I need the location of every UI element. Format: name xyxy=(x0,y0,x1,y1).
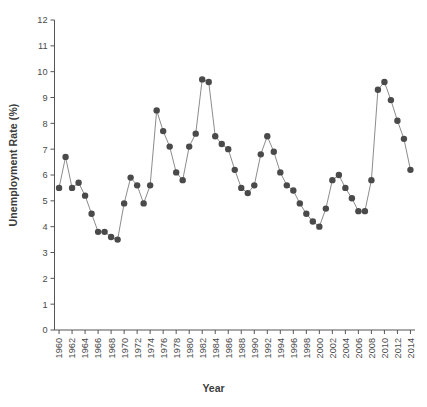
svg-text:2004: 2004 xyxy=(341,338,351,358)
svg-text:6: 6 xyxy=(42,170,47,180)
unemployment-rate-line-chart: Unemployment Rate (%) 0123456789101112 1… xyxy=(0,0,427,407)
svg-text:1984: 1984 xyxy=(211,338,221,358)
svg-text:1: 1 xyxy=(42,300,47,310)
svg-text:1974: 1974 xyxy=(146,338,156,358)
x-axis: 1960196219641966196819701972197419761978… xyxy=(54,330,415,358)
svg-text:1986: 1986 xyxy=(224,338,234,358)
svg-text:1962: 1962 xyxy=(67,338,77,358)
svg-text:1990: 1990 xyxy=(250,338,260,358)
svg-text:1996: 1996 xyxy=(289,338,299,358)
svg-text:1964: 1964 xyxy=(80,338,90,358)
svg-text:2014: 2014 xyxy=(406,338,416,358)
svg-text:1982: 1982 xyxy=(198,338,208,358)
svg-text:8: 8 xyxy=(42,119,47,129)
svg-text:1978: 1978 xyxy=(172,338,182,358)
svg-text:1992: 1992 xyxy=(263,338,273,358)
svg-text:11: 11 xyxy=(38,41,48,51)
svg-text:2002: 2002 xyxy=(328,338,338,358)
svg-text:1988: 1988 xyxy=(237,338,247,358)
svg-text:2: 2 xyxy=(42,274,47,284)
svg-text:2000: 2000 xyxy=(315,338,325,358)
svg-text:9: 9 xyxy=(42,93,47,103)
svg-text:1960: 1960 xyxy=(54,338,64,358)
svg-text:2010: 2010 xyxy=(380,338,390,358)
svg-text:10: 10 xyxy=(37,67,47,77)
svg-text:1998: 1998 xyxy=(302,338,312,358)
svg-text:0: 0 xyxy=(42,325,47,335)
y-axis-title: Unemployment Rate (%) xyxy=(2,0,24,330)
svg-text:7: 7 xyxy=(42,145,47,155)
chart-plot-area: 0123456789101112 19601962196419661968197… xyxy=(0,0,427,407)
x-axis-title: Year xyxy=(0,382,427,394)
svg-text:1976: 1976 xyxy=(159,338,169,358)
svg-text:1994: 1994 xyxy=(276,338,286,358)
data-series-unemployment-rate xyxy=(56,76,414,243)
svg-text:1968: 1968 xyxy=(107,338,117,358)
svg-text:3: 3 xyxy=(42,248,47,258)
svg-text:1970: 1970 xyxy=(120,338,130,358)
svg-text:1980: 1980 xyxy=(185,338,195,358)
svg-text:4: 4 xyxy=(42,222,47,232)
svg-text:5: 5 xyxy=(42,196,47,206)
svg-text:1966: 1966 xyxy=(93,338,103,358)
svg-text:2008: 2008 xyxy=(367,338,377,358)
y-axis: 0123456789101112 xyxy=(37,15,54,335)
svg-text:1972: 1972 xyxy=(133,338,143,358)
svg-text:2012: 2012 xyxy=(393,338,403,358)
svg-text:2006: 2006 xyxy=(354,338,364,358)
svg-text:12: 12 xyxy=(37,15,47,25)
